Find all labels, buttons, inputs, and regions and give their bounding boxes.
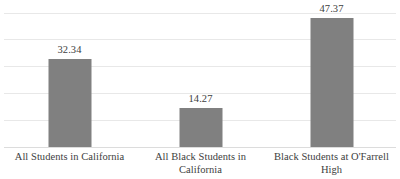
category-label-2: Black Students at O'Farrell High — [265, 150, 398, 176]
bar-chart: 32.34 14.27 47.37 All Students in Califo… — [0, 0, 400, 179]
bar-0[interactable] — [48, 59, 91, 147]
category-label-0: All Students in California — [3, 150, 136, 163]
category-label-1: All Black Students in California — [134, 150, 267, 176]
bar-2[interactable] — [310, 18, 353, 147]
bar-value-1: 14.27 — [188, 93, 212, 105]
bar-value-0: 32.34 — [57, 44, 81, 56]
bar-group-2: 47.37 — [265, 0, 398, 148]
bar-group-0: 32.34 — [3, 0, 136, 148]
bar-value-2: 47.37 — [319, 3, 343, 15]
bar-group-1: 14.27 — [134, 0, 267, 148]
category-axis: All Students in California All Black Stu… — [0, 150, 400, 179]
bar-1[interactable] — [179, 108, 222, 147]
plot-area: 32.34 14.27 47.37 — [0, 0, 400, 148]
